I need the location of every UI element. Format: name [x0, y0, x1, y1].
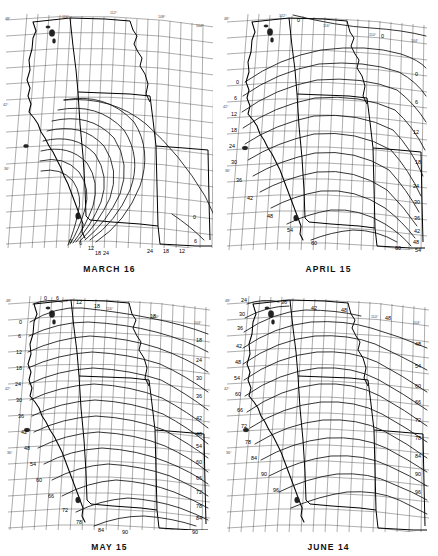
svg-text:42°: 42°	[5, 387, 11, 391]
graticule-meridians	[229, 296, 425, 533]
svg-text:116°: 116°	[323, 24, 331, 28]
svg-text:66: 66	[196, 475, 202, 481]
svg-text:18: 18	[95, 250, 101, 256]
svg-text:110°: 110°	[371, 315, 379, 319]
map-june: 48° 42° 36° 122° 110° 104° 24 30 36 36 4…	[219, 278, 438, 556]
svg-text:104°: 104°	[411, 39, 419, 43]
panel-title-may: MAY 15	[0, 542, 219, 552]
svg-text:78: 78	[415, 435, 421, 441]
svg-text:0: 0	[193, 214, 196, 220]
svg-text:48: 48	[413, 239, 419, 245]
svg-text:48: 48	[341, 307, 347, 313]
svg-text:0: 0	[415, 71, 418, 77]
svg-text:90: 90	[192, 529, 198, 535]
svg-text:54: 54	[196, 443, 202, 449]
svg-text:42°: 42°	[223, 105, 229, 109]
svg-text:12: 12	[88, 245, 94, 251]
svg-text:66: 66	[237, 407, 243, 413]
svg-text:54: 54	[415, 247, 421, 253]
svg-text:78: 78	[76, 519, 82, 525]
svg-text:48°: 48°	[5, 17, 11, 21]
svg-text:72: 72	[241, 423, 247, 429]
svg-text:24: 24	[147, 248, 153, 254]
svg-text:72: 72	[415, 417, 421, 423]
svg-text:36°: 36°	[226, 451, 232, 455]
svg-text:0: 0	[381, 33, 384, 39]
svg-text:66: 66	[415, 399, 421, 405]
panel-march: 48° 42° 36° 116° 112° 108° 104° 0 6 12 1…	[0, 0, 219, 278]
svg-text:0: 0	[19, 319, 22, 325]
svg-text:30: 30	[16, 397, 22, 403]
svg-text:110°: 110°	[369, 33, 377, 37]
svg-text:48°: 48°	[225, 299, 231, 303]
svg-text:12: 12	[413, 129, 419, 135]
graticule-parallels	[227, 300, 429, 534]
svg-text:48: 48	[235, 359, 241, 365]
svg-text:54: 54	[287, 227, 293, 233]
svg-text:18: 18	[415, 159, 421, 165]
svg-text:30: 30	[239, 311, 245, 317]
svg-text:60: 60	[395, 245, 401, 251]
svg-text:24: 24	[15, 381, 21, 387]
svg-text:18: 18	[16, 365, 22, 371]
svg-text:30: 30	[231, 159, 237, 165]
svg-text:116°: 116°	[106, 307, 114, 311]
contour-labels-april: 0 0 0 6 12 18 24 30 36 42 48 54 60 0 6 1…	[229, 17, 421, 253]
svg-text:6: 6	[194, 238, 197, 244]
svg-text:72: 72	[196, 489, 202, 495]
svg-text:104°: 104°	[413, 321, 421, 325]
svg-text:42°: 42°	[224, 387, 230, 391]
svg-text:42: 42	[236, 343, 242, 349]
svg-text:122°: 122°	[279, 14, 287, 18]
svg-text:122°: 122°	[62, 299, 70, 303]
svg-text:60: 60	[235, 391, 241, 397]
figure-contour-map-grid: 48° 42° 36° 116° 112° 108° 104° 0 6 12 1…	[0, 0, 438, 556]
svg-text:42°: 42°	[3, 103, 9, 107]
svg-text:0: 0	[69, 238, 72, 244]
svg-text:78: 78	[245, 439, 251, 445]
svg-text:42: 42	[414, 228, 420, 234]
panel-may: 48° 42° 36° 122° 116° 110° 104° 0 6 12 1…	[0, 278, 219, 556]
svg-text:36: 36	[237, 325, 243, 331]
svg-text:104°: 104°	[194, 321, 202, 325]
svg-text:78: 78	[196, 503, 202, 509]
svg-text:90: 90	[415, 471, 421, 477]
svg-text:90: 90	[122, 529, 128, 535]
svg-text:90: 90	[261, 471, 267, 477]
svg-text:18: 18	[196, 337, 202, 343]
svg-text:18: 18	[150, 313, 156, 319]
svg-text:6: 6	[415, 99, 418, 105]
map-march: 48° 42° 36° 116° 112° 108° 104° 0 6 12 1…	[0, 0, 219, 278]
svg-text:42: 42	[311, 305, 317, 311]
svg-text:36: 36	[414, 215, 420, 221]
svg-text:0: 0	[236, 79, 239, 85]
svg-text:54: 54	[415, 363, 421, 369]
svg-text:48: 48	[24, 445, 30, 451]
svg-text:24: 24	[103, 250, 109, 256]
panel-title-march: MARCH 16	[0, 264, 219, 274]
svg-text:6: 6	[79, 240, 82, 246]
panel-april: 48° 42° 36° 122° 116° 110° 104° 0 0 0 6 …	[219, 0, 438, 278]
svg-text:72: 72	[62, 507, 68, 513]
svg-text:54: 54	[234, 375, 240, 381]
map-may: 48° 42° 36° 122° 116° 110° 104° 0 6 12 1…	[0, 278, 219, 556]
svg-text:18: 18	[163, 248, 169, 254]
svg-text:36°: 36°	[7, 451, 13, 455]
svg-text:112°: 112°	[110, 11, 118, 15]
panel-june: 48° 42° 36° 122° 110° 104° 24 30 36 36 4…	[219, 278, 438, 556]
svg-text:48°: 48°	[6, 299, 12, 303]
svg-text:96: 96	[415, 489, 421, 495]
panel-title-june: JUNE 14	[219, 542, 438, 552]
svg-text:48°: 48°	[224, 17, 230, 21]
svg-text:30: 30	[196, 375, 202, 381]
map-april: 48° 42° 36° 122° 116° 110° 104° 0 0 0 6 …	[219, 0, 438, 278]
svg-text:66: 66	[48, 493, 54, 499]
svg-text:12: 12	[231, 111, 237, 117]
svg-text:84: 84	[196, 515, 202, 521]
svg-text:60: 60	[36, 477, 42, 483]
svg-text:48: 48	[267, 213, 273, 219]
svg-text:104°: 104°	[196, 24, 204, 28]
svg-text:6: 6	[18, 333, 21, 339]
svg-text:24: 24	[196, 357, 202, 363]
svg-text:42: 42	[196, 415, 202, 421]
